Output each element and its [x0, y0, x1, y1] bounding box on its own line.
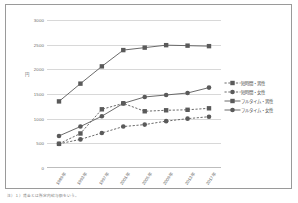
data-point-marker: [230, 89, 235, 94]
data-point-marker: [207, 44, 211, 48]
data-point-marker: [185, 116, 190, 121]
legend-marker-icon: [224, 88, 241, 96]
data-point-marker: [121, 124, 126, 129]
legend-item: 短時間・男性: [224, 78, 286, 87]
legend-item: フルタイム・女性: [224, 105, 286, 114]
x-axis-tick-label: 2001年: [118, 171, 131, 186]
series-layer: [47, 20, 221, 168]
legend-marker-icon: [224, 79, 241, 87]
data-point-marker: [142, 95, 147, 100]
legend-item: 短時間・女性: [224, 87, 286, 96]
legend-marker-icon: [224, 97, 241, 105]
data-point-marker: [164, 43, 168, 47]
legend-item-label: フルタイム・女性: [241, 107, 273, 113]
chart-legend: 短時間・男性短時間・女性フルタイム・男性フルタイム・女性: [224, 78, 286, 114]
legend-marker-icon: [224, 106, 241, 114]
plot-area: 050010001500200025003000 1989年1993年1997年…: [47, 20, 221, 168]
y-axis-tick-label: 1000: [34, 116, 44, 121]
legend-item-label: 短時間・男性: [241, 80, 265, 86]
data-point-marker: [185, 43, 189, 47]
data-point-marker: [78, 137, 83, 142]
data-point-marker: [100, 64, 104, 68]
data-point-marker: [57, 134, 62, 139]
data-point-marker: [78, 124, 83, 129]
data-point-marker: [78, 81, 82, 85]
data-point-marker: [143, 45, 147, 49]
data-point-marker: [164, 93, 169, 98]
x-axis-tick-label: 2017年: [204, 171, 217, 186]
x-axis-tick-label: 2005年: [140, 171, 153, 186]
y-axis-tick-label: 0: [41, 166, 44, 171]
data-point-marker: [121, 48, 125, 52]
legend-item-label: 短時間・女性: [241, 89, 265, 95]
series-ci-dashed: [57, 114, 212, 146]
data-point-marker: [57, 142, 62, 147]
x-axis-tick-label: 1997年: [97, 171, 110, 186]
data-point-marker: [78, 131, 82, 135]
data-point-marker: [164, 108, 168, 112]
data-point-marker: [142, 122, 147, 127]
y-axis-title: 円: [25, 71, 29, 77]
data-point-marker: [207, 106, 211, 110]
data-point-marker: [121, 101, 125, 105]
y-axis-tick-label: 2000: [34, 67, 44, 72]
y-axis-tick-label: 3000: [34, 18, 44, 23]
y-axis-tick-label: 500: [36, 141, 44, 146]
data-point-marker: [230, 107, 235, 112]
data-point-marker: [100, 114, 105, 119]
legend-item: フルタイム・男性: [224, 96, 286, 105]
x-axis-tick-label: 1989年: [54, 171, 67, 186]
slide-canvas: 円 050010001500200025003000 1989年1993年199…: [0, 0, 298, 203]
data-point-marker: [100, 107, 104, 111]
data-point-marker: [207, 85, 212, 90]
legend-item-label: フルタイム・男性: [241, 98, 273, 104]
x-axis-tick-label: 2009年: [161, 171, 174, 186]
data-point-marker: [57, 99, 61, 103]
y-axis-tick-label: 1500: [34, 92, 44, 97]
data-point-marker: [207, 114, 212, 119]
data-point-marker: [185, 91, 190, 96]
figure-footnote: 注）１）賃金とは所定内給与額をいう。: [7, 193, 79, 198]
data-point-marker: [230, 98, 234, 102]
x-axis-tick-label: 1993年: [75, 171, 88, 186]
data-point-marker: [185, 108, 189, 112]
data-point-marker: [230, 80, 234, 84]
data-point-marker: [100, 131, 105, 136]
y-axis-tick-label: 2500: [34, 42, 44, 47]
data-point-marker: [164, 119, 169, 124]
x-axis-tick-label: 2013年: [183, 171, 196, 186]
data-point-marker: [143, 109, 147, 113]
